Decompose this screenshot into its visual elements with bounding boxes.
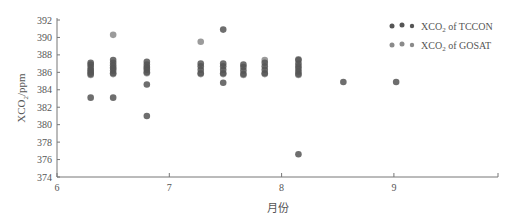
data-point — [87, 59, 94, 66]
legend-marker-icon — [410, 43, 414, 47]
data-point — [295, 151, 302, 158]
y-tick-label: 382 — [37, 102, 52, 113]
x-tick-label: 7 — [167, 182, 172, 193]
data-point — [110, 32, 117, 39]
data-point — [110, 57, 117, 64]
y-tick-label: 390 — [37, 32, 52, 43]
scatter-chart: 3743763783803823843863883903926789 XCO2 … — [0, 0, 512, 220]
y-tick-label: 380 — [37, 119, 52, 130]
y-tick-label: 388 — [37, 49, 52, 60]
legend-label: XCO2 of TCCON — [421, 21, 493, 34]
data-point — [340, 79, 347, 86]
data-point — [261, 59, 268, 66]
data-point — [110, 94, 117, 101]
x-tick-label: 9 — [391, 182, 396, 193]
data-point — [144, 81, 151, 88]
data-point — [87, 94, 94, 101]
x-tick-label: 8 — [279, 182, 284, 193]
data-point — [240, 61, 247, 68]
x-axis-label: 月份 — [267, 202, 289, 214]
data-point — [144, 59, 151, 66]
data-point — [144, 113, 151, 120]
data-point — [295, 57, 302, 64]
y-axis-label: XCO2/ppm — [15, 73, 30, 123]
x-tick-label: 6 — [55, 182, 60, 193]
data-point — [220, 60, 227, 67]
chart-canvas: 3743763783803823843863883903926789 XCO2 … — [0, 0, 512, 220]
legend-marker-icon — [400, 42, 405, 47]
y-tick-label: 384 — [37, 84, 52, 95]
y-tick-label: 374 — [37, 172, 52, 183]
legend-marker-icon — [410, 24, 414, 28]
legend-marker-icon — [390, 43, 395, 48]
data-points — [87, 26, 399, 157]
y-tick-label: 386 — [37, 67, 52, 78]
data-point — [197, 60, 204, 67]
legend-marker-icon — [400, 23, 405, 28]
y-tick-label: 392 — [37, 15, 52, 26]
data-point — [197, 39, 204, 46]
data-point — [220, 26, 227, 33]
y-tick-label: 376 — [37, 154, 52, 165]
y-tick-label: 378 — [37, 137, 52, 148]
legend-marker-icon — [390, 24, 395, 29]
data-point — [393, 79, 400, 86]
legend: XCO2 of TCCONXCO2 of GOSAT — [390, 21, 493, 53]
legend-label: XCO2 of GOSAT — [421, 40, 491, 53]
data-point — [220, 80, 227, 87]
